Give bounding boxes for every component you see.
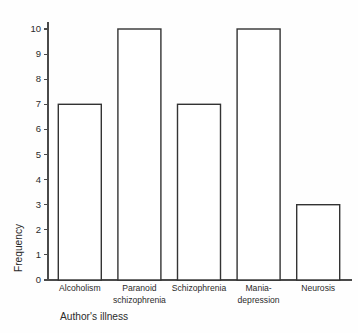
y-axis-tick-group xyxy=(44,29,48,280)
y-axis-tick-label-group: 012345678910 xyxy=(30,23,41,285)
bar xyxy=(178,104,221,280)
y-axis-tick-label: 7 xyxy=(36,98,41,109)
bar xyxy=(118,29,161,280)
y-axis-tick-label: 0 xyxy=(36,274,41,285)
y-axis-tick-label: 3 xyxy=(36,199,41,210)
y-axis-tick-label: 9 xyxy=(36,48,41,59)
x-axis-category-label: Mania-depression xyxy=(238,283,280,305)
bar xyxy=(297,205,340,280)
y-axis-tick-label: 2 xyxy=(36,224,41,235)
y-axis-tick-label: 5 xyxy=(36,149,41,160)
x-axis-category-label: Paranoidschizophrenia xyxy=(113,283,166,305)
y-axis-tick-label: 8 xyxy=(36,73,41,84)
y-axis-tick-label: 1 xyxy=(36,249,41,260)
x-axis-category-label-group: AlcoholismParanoidschizophreniaSchizophr… xyxy=(59,283,335,305)
chart-canvas: 012345678910 AlcoholismParanoidschizophr… xyxy=(0,0,358,333)
y-axis-tick-label: 6 xyxy=(36,123,41,134)
y-axis-title: Frequency xyxy=(13,223,24,272)
bar-group xyxy=(58,29,339,280)
x-axis-title: Author's illness xyxy=(60,311,128,322)
bar xyxy=(237,29,280,280)
bar xyxy=(58,104,101,280)
y-axis-tick-label: 4 xyxy=(36,174,41,185)
x-axis-category-label: Alcoholism xyxy=(59,283,101,293)
bar-chart-figure: 012345678910 AlcoholismParanoidschizophr… xyxy=(0,0,358,333)
y-axis-tick-label: 10 xyxy=(30,23,41,34)
x-axis-category-label: Neurosis xyxy=(301,283,335,293)
x-axis-category-label: Schizophrenia xyxy=(172,283,227,293)
